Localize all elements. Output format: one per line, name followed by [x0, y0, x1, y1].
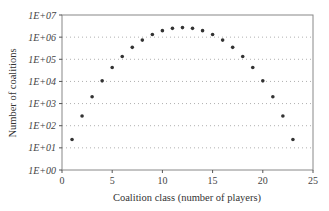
data-point — [151, 33, 155, 37]
y-tick-label: 1E+03 — [28, 98, 56, 109]
data-point — [141, 38, 145, 42]
y-tick-label: 1E+07 — [28, 10, 57, 21]
data-point — [251, 66, 255, 70]
data-point — [171, 27, 175, 31]
y-tick-label: 1E+05 — [28, 54, 56, 65]
data-point — [130, 46, 134, 50]
x-axis-label: Coalition class (number of players) — [113, 192, 262, 204]
data-point — [201, 29, 205, 33]
x-tick-label: 10 — [157, 175, 167, 186]
data-point — [90, 95, 94, 99]
data-point — [80, 114, 84, 118]
x-tick-label: 20 — [258, 175, 268, 186]
data-point — [161, 29, 165, 33]
data-point — [291, 138, 295, 142]
y-tick-label: 1E+04 — [28, 76, 56, 87]
x-tick-label: 25 — [308, 175, 318, 186]
grid-lines — [62, 37, 313, 148]
data-points — [70, 26, 294, 141]
data-point — [191, 27, 195, 31]
plot-frame — [62, 15, 313, 170]
data-point — [281, 114, 285, 118]
x-tick-label: 5 — [110, 175, 115, 186]
data-point — [100, 79, 104, 83]
data-point — [231, 46, 235, 50]
y-tick-label: 1E+00 — [28, 165, 56, 176]
data-point — [181, 26, 185, 30]
y-tick-label: 1E+06 — [28, 32, 56, 43]
data-point — [271, 95, 275, 99]
x-tick-label: 0 — [60, 175, 65, 186]
scatter-chart: 1E+001E+011E+021E+031E+041E+051E+061E+07… — [0, 0, 329, 211]
data-point — [120, 55, 124, 59]
y-tick-label: 1E+01 — [28, 142, 56, 153]
y-tick-label: 1E+02 — [28, 120, 56, 131]
data-point — [211, 33, 215, 37]
y-axis-label: Number of coalitions — [7, 48, 18, 137]
x-axis-ticks: 0510152025 — [60, 170, 319, 186]
data-point — [221, 38, 225, 42]
data-point — [110, 66, 114, 70]
data-point — [70, 138, 74, 142]
y-axis-ticks: 1E+001E+011E+021E+031E+041E+051E+061E+07 — [28, 10, 62, 176]
data-point — [241, 55, 245, 59]
data-point — [261, 79, 265, 83]
x-tick-label: 15 — [208, 175, 218, 186]
